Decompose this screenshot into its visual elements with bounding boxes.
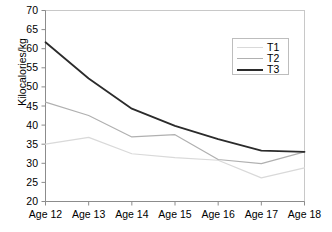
legend-swatch-t3 [237,69,263,71]
y-axis-ticks [42,11,46,202]
legend-item-t3: T3 [233,64,290,76]
legend-swatch-t1 [237,47,263,48]
x-tick-label: Age 12 [24,209,68,220]
y-tick-label: 60 [12,43,38,53]
y-tick-label: 55 [12,62,38,72]
chart-legend: T1T2T3 [232,38,289,75]
line-chart-canvas [0,0,332,232]
y-tick-label: 65 [12,24,38,34]
y-tick-label: 20 [12,196,38,206]
x-axis-ticks [46,202,305,206]
x-tick-label: Age 15 [153,209,197,220]
x-tick-label: Age 16 [196,209,240,220]
y-tick-label: 35 [12,139,38,149]
y-tick-label: 50 [12,81,38,91]
y-tick-label: 25 [12,177,38,187]
legend-label-t3: T3 [267,63,279,75]
y-tick-label: 70 [12,5,38,15]
x-tick-label: Age 17 [239,209,283,220]
y-tick-label: 45 [12,101,38,111]
legend-swatch-t2 [237,58,263,59]
x-tick-label: Age 18 [283,209,327,220]
x-tick-label: Age 14 [110,209,154,220]
y-tick-label: 30 [12,158,38,168]
x-tick-label: Age 13 [67,209,111,220]
y-tick-label: 40 [12,120,38,130]
chart-container: Kilocalories/kg 2025303540455055606570 A… [0,0,332,232]
